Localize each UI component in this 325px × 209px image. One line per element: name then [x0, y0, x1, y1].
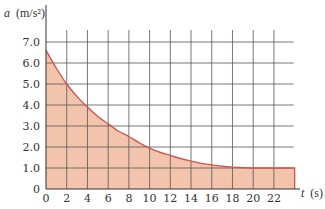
- x-tick-label: 12: [163, 192, 177, 205]
- x-tick-label: 22: [267, 192, 281, 205]
- x-tick-labels: 0246810121416182022: [43, 192, 281, 205]
- y-tick-label: 5.0: [23, 78, 41, 91]
- y-tick-labels: 01.02.03.04.05.06.07.0: [23, 36, 41, 196]
- y-tick-label: 2.0: [23, 141, 41, 154]
- x-tick-label: 20: [246, 192, 260, 205]
- y-tick-label: 1.0: [23, 162, 41, 175]
- x-tick-label: 18: [225, 192, 239, 205]
- x-tick-label: 0: [43, 192, 50, 205]
- y-tick-label: 3.0: [23, 120, 41, 133]
- x-tick-label: 2: [63, 192, 70, 205]
- y-tick-label: 4.0: [23, 99, 41, 112]
- x-tick-label: 4: [84, 192, 91, 205]
- y-axis-label: a (m/s²): [4, 6, 45, 20]
- x-tick-label: 8: [125, 192, 132, 205]
- y-tick-label: 7.0: [23, 36, 41, 49]
- y-tick-label: 0: [33, 183, 40, 196]
- x-tick-label: 14: [184, 192, 198, 205]
- x-tick-label: 10: [143, 192, 157, 205]
- acceleration-chart: 01.02.03.04.05.06.07.0 02468101214161820…: [0, 0, 325, 209]
- x-axis-label: t (s): [301, 186, 323, 200]
- x-tick-label: 6: [105, 192, 112, 205]
- x-tick-label: 16: [205, 192, 219, 205]
- y-tick-label: 6.0: [23, 57, 41, 70]
